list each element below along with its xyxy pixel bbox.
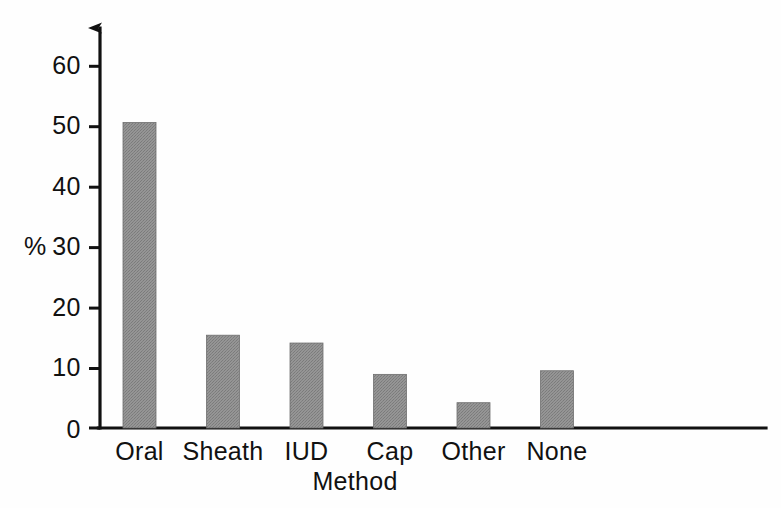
x-tick-label-iud: IUD [285,437,329,465]
y-tick-group [89,66,100,428]
y-tick-label-40: 40 [52,172,81,200]
bar-none [541,371,574,428]
y-tick-label-group: 0 10 20 30 40 50 60 [52,51,81,443]
y-tick-label-20: 20 [52,293,81,321]
x-tick-label-sheath: Sheath [182,437,263,465]
x-axis-title: Method [312,467,397,495]
y-tick-label-0: 0 [67,415,81,443]
bar-other [457,403,490,428]
bars-group [123,122,574,428]
bar-sheath [207,335,240,428]
chart-canvas: 0 10 20 30 40 50 60 % Oral Sheath IUD Ca… [0,0,781,508]
bar-oral [123,122,156,428]
y-tick-label-30: 30 [52,232,81,260]
x-tick-label-other: Other [441,437,505,465]
bar-chart-figure: 0 10 20 30 40 50 60 % Oral Sheath IUD Ca… [0,0,781,508]
y-tick-label-60: 60 [52,51,81,79]
bar-iud [290,343,323,428]
x-tick-label-none: None [527,437,588,465]
y-tick-label-50: 50 [52,111,81,139]
y-tick-label-10: 10 [52,353,81,381]
x-tick-label-cap: Cap [367,437,414,465]
x-tick-label-oral: Oral [115,437,163,465]
bar-cap [374,374,407,428]
x-tick-label-group: Oral Sheath IUD Cap Other None [115,437,587,465]
y-axis-unit-label: % [24,232,46,260]
